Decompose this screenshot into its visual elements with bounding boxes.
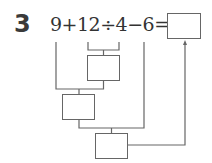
connector-result [128,43,185,145]
connector-6 [79,42,144,128]
bracket-12-div-4 [88,42,119,50]
arrow-up-icon [183,40,187,45]
connector-9 [56,42,104,89]
connector-lines [0,0,212,163]
